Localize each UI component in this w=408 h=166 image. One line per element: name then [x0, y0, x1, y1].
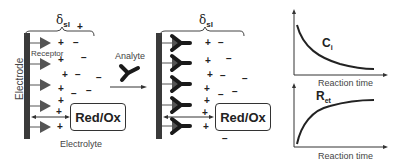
analyte-label: Analyte [115, 51, 145, 61]
minus-sign: − [218, 90, 224, 100]
ci-curve [297, 25, 374, 69]
minus-sign: − [218, 38, 224, 48]
minus-sign: − [81, 53, 87, 63]
redox-box-left: Red/Ox [70, 103, 126, 131]
plot-ci [292, 9, 388, 77]
redox-box-right: Red/Ox [215, 103, 271, 131]
delta-label-right: δsl [199, 13, 213, 29]
plus-sign: + [203, 122, 209, 132]
plus-sign: + [205, 56, 211, 66]
ret-curve [297, 100, 374, 144]
receptor-antibody-complexes-right [162, 36, 190, 133]
minus-sign: − [232, 87, 238, 97]
plot2-xlabel: Reaction time [318, 151, 373, 161]
plus-sign: + [56, 107, 62, 117]
ret-label: Ret [316, 89, 331, 104]
electrolyte-label: Electrolyte [60, 139, 102, 149]
minus-sign: − [73, 38, 79, 48]
plus-sign: + [204, 96, 210, 106]
analyte-icon [121, 66, 138, 80]
minus-sign: − [222, 134, 228, 144]
plus-sign: + [77, 22, 83, 32]
minus-sign: − [242, 74, 248, 84]
minus-sign: − [220, 71, 226, 81]
electrode-bar-right [156, 33, 162, 139]
reaction-arrow [110, 85, 147, 89]
minus-sign: − [75, 70, 81, 80]
delta-label-left: δsl [56, 13, 70, 29]
plus-sign: + [58, 55, 64, 65]
plus-sign: + [202, 108, 208, 118]
plus-sign: + [57, 122, 63, 132]
ci-label: Ci [322, 36, 333, 51]
minus-sign: − [86, 86, 92, 96]
plus-sign: + [58, 84, 64, 94]
electrode-label: Electrode [14, 58, 25, 100]
plus-sign: + [207, 70, 213, 80]
plus-sign: + [58, 38, 64, 48]
electron-transfer-arrow-left [31, 115, 70, 119]
plot1-xlabel: Reaction time [318, 78, 373, 88]
minus-sign: − [226, 54, 232, 64]
plus-sign: + [62, 70, 68, 80]
plus-sign: + [204, 84, 210, 94]
minus-sign: − [71, 89, 77, 99]
plot-ret [292, 83, 388, 149]
plus-sign: + [58, 96, 64, 106]
plus-sign: + [205, 38, 211, 48]
minus-sign: − [96, 73, 102, 83]
